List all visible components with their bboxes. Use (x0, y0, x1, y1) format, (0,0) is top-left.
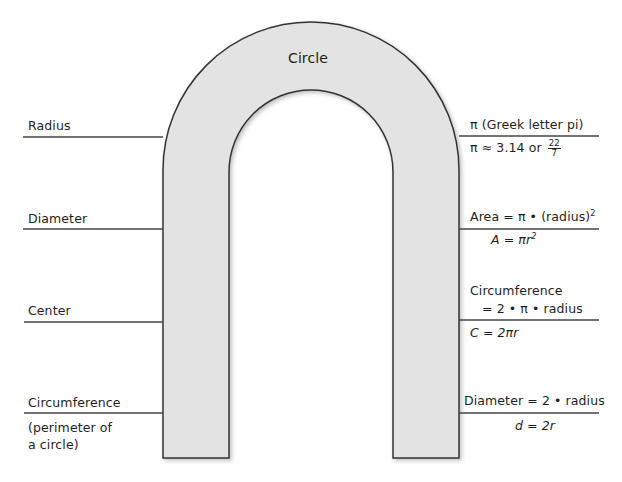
label-circumference-note-2: a circle) (28, 437, 79, 452)
diameter-formula-words: Diameter = 2 • radius (464, 393, 605, 408)
fraction-22-7: 227 (548, 139, 561, 158)
area-formula-words: Area = π • (radius)2 (470, 209, 596, 224)
pi-approx-text: π ≈ 3.14 or (470, 140, 546, 155)
label-circumference-note-1: (perimeter of (28, 420, 112, 435)
circumference-formula-line1: Circumference (470, 283, 562, 298)
label-circumference: Circumference (28, 395, 120, 410)
label-center: Center (28, 303, 71, 318)
area-formula-text: Area = π • (radius) (470, 209, 590, 224)
label-diameter: Diameter (28, 211, 87, 226)
area-formula-symbolic: A = πr2 (491, 232, 536, 247)
pi-approximation: π ≈ 3.14 or 227 (470, 139, 561, 158)
area-symbolic-exponent: 2 (531, 232, 536, 241)
label-radius: Radius (28, 118, 71, 133)
area-exponent: 2 (590, 209, 595, 218)
circumference-formula-symbolic: C = 2πr (470, 325, 518, 340)
circle-title: Circle (288, 50, 328, 66)
diameter-formula-symbolic: d = 2r (515, 418, 555, 433)
circumference-formula-line2: = 2 • π • radius (482, 301, 583, 316)
fraction-denominator: 7 (548, 149, 561, 158)
area-symbolic-text: A = πr (491, 232, 531, 247)
pi-definition: π (Greek letter pi) (470, 117, 583, 132)
